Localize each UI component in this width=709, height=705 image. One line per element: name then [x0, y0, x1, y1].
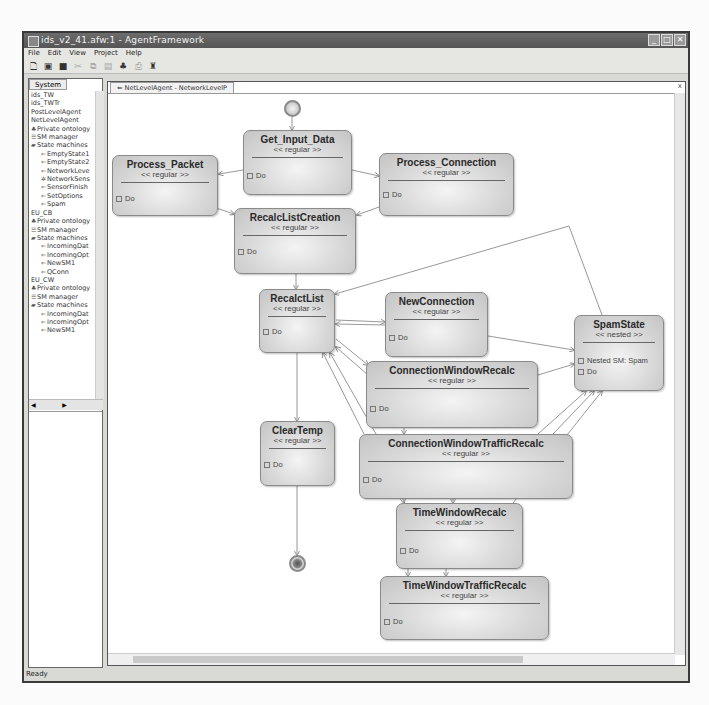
open-icon[interactable]: ▣ — [43, 61, 53, 71]
menu-edit[interactable]: Edit — [48, 48, 62, 59]
state-connection-window-traffic-recalc[interactable]: ConnectionWindowTrafficRecalc << regular… — [359, 434, 573, 499]
tree-item[interactable]: ♣Private ontology — [29, 217, 95, 225]
attribute-bullet-icon — [400, 548, 406, 554]
divider — [388, 180, 505, 181]
tree-item[interactable]: ids_TWTr — [29, 99, 95, 107]
node-attribute: Do — [264, 460, 283, 469]
state-connection-window-recalc[interactable]: ConnectionWindowRecalc << regular >> Do — [366, 361, 538, 428]
close-button[interactable]: ✕ — [674, 34, 686, 46]
attribute-bullet-icon — [578, 369, 584, 375]
new-file-icon[interactable]: 🗋 — [28, 61, 38, 71]
state-spam-state[interactable]: SpamState << nested >> Nested SM: Spam D… — [574, 315, 664, 391]
tree-vertical-scrollbar[interactable] — [95, 91, 104, 399]
tree-item[interactable]: ⇐IncomingDat — [29, 242, 95, 250]
attribute-bullet-icon — [247, 173, 253, 179]
menu-project[interactable]: Project — [94, 48, 118, 59]
status-bar: Ready — [26, 670, 48, 678]
copy-icon[interactable]: ⧉ — [88, 61, 98, 71]
tree-item[interactable]: EU_CB — [29, 209, 95, 217]
state-clear-temp[interactable]: ClearTemp << regular >> Do — [260, 421, 335, 486]
state-recalc-list-creation[interactable]: RecalcListCreation << regular >> Do — [234, 208, 356, 274]
tree-item[interactable]: ▰State machines — [29, 301, 95, 309]
tree-item[interactable]: ✲NetworkSens — [29, 175, 95, 183]
tree-item[interactable]: PostLevelAgent — [29, 108, 95, 116]
node-attribute: Do — [247, 171, 266, 180]
node-attribute: Do — [263, 327, 282, 336]
tree-item[interactable]: ⇐SetOptions — [29, 192, 95, 200]
attribute-bullet-icon — [238, 249, 244, 255]
tree-item[interactable]: ⇐IncomingOpt — [29, 318, 95, 326]
tree-item[interactable]: NetLevelAgent — [29, 116, 95, 124]
tree-item[interactable]: ▰State machines — [29, 234, 95, 242]
final-state[interactable] — [289, 555, 306, 572]
canvas-vertical-scrollbar[interactable] — [674, 93, 685, 655]
node-attribute: Do — [400, 546, 419, 555]
close-editor-icon[interactable]: x — [678, 82, 682, 90]
tree-item[interactable]: ⇐EmptyState2 — [29, 158, 95, 166]
tree-item[interactable]: ⇐QConn — [29, 268, 95, 276]
attribute-bullet-icon — [264, 462, 270, 468]
tree-item[interactable]: ⇐EmptyState1 — [29, 150, 95, 158]
state-new-connection[interactable]: NewConnection << regular >> Do — [385, 292, 488, 357]
pin-icon[interactable]: ♜ — [148, 61, 158, 71]
tab-system[interactable]: System — [29, 79, 67, 90]
tree-item[interactable]: ⇐NetworkLeve — [29, 167, 95, 175]
tree-item[interactable]: ☰SM manager — [29, 133, 95, 141]
state-process-connection[interactable]: Process_Connection << regular >> Do — [379, 153, 514, 216]
tree-item[interactable]: ⇐NewSM1 — [29, 326, 95, 334]
tab-network-level[interactable]: ⇐ NetLevelAgent - NetworkLevelP — [110, 82, 234, 93]
tree-item[interactable]: ⇐IncomingDat — [29, 310, 95, 318]
toolbar: 🗋 ▣ ■ ✂ ⧉ ▤ ♣ ⎙ ♜ — [24, 59, 688, 74]
node-attribute: Do — [116, 194, 135, 203]
state-time-window-traffic-recalc[interactable]: TimeWindowTrafficRecalc << regular >> Do — [380, 576, 549, 640]
scrollbar-thumb[interactable] — [133, 656, 523, 663]
tree-item[interactable]: ▰State machines — [29, 141, 95, 149]
node-attribute: Do — [384, 617, 403, 626]
tree-item[interactable]: ⇐SensorFinish — [29, 183, 95, 191]
tree-item[interactable]: EU_CW — [29, 276, 95, 284]
state-machine-icon: ⇐ — [117, 84, 125, 92]
state-recalct-list[interactable]: RecalctList << regular >> Do — [259, 289, 335, 353]
attribute-bullet-icon — [578, 358, 584, 364]
diagram-canvas[interactable]: Get_Input_Data << regular >> Do Process_… — [108, 93, 675, 656]
tree-item[interactable]: ⇐NewSM1 — [29, 259, 95, 267]
node-attribute: Do — [383, 190, 402, 199]
app-window: ids_v2_41.afw:1 - AgentFramework _ □ ✕ F… — [22, 31, 690, 683]
maximize-button[interactable]: □ — [661, 34, 673, 46]
tree-item[interactable]: ids_TW — [29, 91, 95, 99]
tree-item[interactable]: ⇐Spam — [29, 200, 95, 208]
state-time-window-recalc[interactable]: TimeWindowRecalc << regular >> Do — [396, 503, 523, 569]
window-title: ids_v2_41.afw:1 - AgentFramework — [41, 33, 204, 48]
attribute-bullet-icon — [116, 196, 122, 202]
tree-item[interactable]: ♣Private ontology — [29, 284, 95, 292]
menu-file[interactable]: File — [28, 48, 40, 59]
divider — [243, 235, 347, 236]
divider — [394, 319, 479, 320]
minimize-button[interactable]: _ — [648, 34, 660, 46]
system-panel: System ids_TW ids_TWTr PostLevelAgent Ne… — [28, 78, 103, 668]
attribute-bullet-icon — [389, 335, 395, 341]
paste-icon[interactable]: ▤ — [103, 61, 113, 71]
divider — [269, 448, 326, 449]
divider — [268, 316, 326, 317]
attribute-bullet-icon — [384, 619, 390, 625]
node-attribute: Nested SM: Spam — [578, 356, 648, 365]
tree-item[interactable]: ☰SM manager — [29, 226, 95, 234]
cut-icon[interactable]: ✂ — [73, 61, 83, 71]
state-get-input-data[interactable]: Get_Input_Data << regular >> Do — [243, 130, 352, 195]
canvas-horizontal-scrollbar[interactable] — [108, 653, 675, 665]
divider — [121, 182, 209, 183]
menu-help[interactable]: Help — [126, 48, 142, 59]
print-icon[interactable]: ⎙ — [133, 61, 143, 71]
tree-horizontal-scrollbar[interactable]: ◀ ▶ — [29, 399, 103, 410]
tree-item[interactable]: ♣Private ontology — [29, 125, 95, 133]
menu-view[interactable]: View — [69, 48, 86, 59]
initial-state[interactable] — [284, 100, 301, 117]
tree-item[interactable]: ☰SM manager — [29, 293, 95, 301]
tree-item[interactable]: ⇐IncomingOpt — [29, 251, 95, 259]
hierarchy-icon[interactable]: ♣ — [118, 61, 128, 71]
state-process-packet[interactable]: Process_Packet << regular >> Do — [112, 155, 218, 216]
save-icon[interactable]: ■ — [58, 61, 68, 71]
app-icon — [28, 36, 39, 47]
title-bar[interactable]: ids_v2_41.afw:1 - AgentFramework _ □ ✕ — [24, 33, 688, 48]
